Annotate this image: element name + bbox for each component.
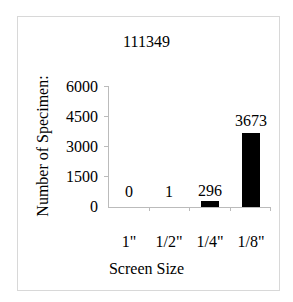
y-tick-label: 6000 (38, 79, 98, 95)
y-tick (104, 116, 108, 117)
category-label: 1/4" (190, 234, 230, 250)
data-label: 296 (190, 183, 230, 199)
category-label: 1" (109, 234, 149, 250)
category-label: 1/8" (231, 234, 271, 250)
y-tick-label: 0 (38, 199, 98, 215)
data-label: 0 (109, 184, 149, 200)
x-tick (189, 207, 190, 211)
category-label: 1/2" (149, 234, 189, 250)
x-tick (270, 207, 271, 211)
x-tick (230, 207, 231, 211)
y-tick-label: 1500 (38, 169, 98, 185)
data-label: 3673 (231, 113, 271, 129)
y-tick (104, 86, 108, 87)
x-axis-label: Screen Size (0, 261, 293, 277)
y-tick-label: 4500 (38, 109, 98, 125)
y-tick (104, 176, 108, 177)
y-tick (104, 146, 108, 147)
bar-1-8 (242, 133, 260, 207)
y-tick-label: 3000 (38, 139, 98, 155)
bar-1-4 (201, 201, 219, 207)
x-tick (149, 207, 150, 211)
data-label: 1 (149, 184, 189, 200)
chart-title: 111349 (0, 34, 293, 50)
